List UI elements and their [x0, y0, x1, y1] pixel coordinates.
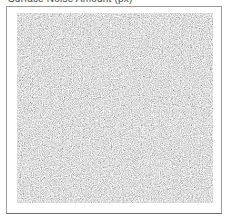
noise-texture-icon — [17, 13, 213, 203]
noise-preview-image — [17, 13, 213, 203]
noise-settings-panel: Surface Noise Amount (px) — [0, 0, 225, 220]
panel-title: Surface Noise Amount (px) — [8, 0, 133, 4]
